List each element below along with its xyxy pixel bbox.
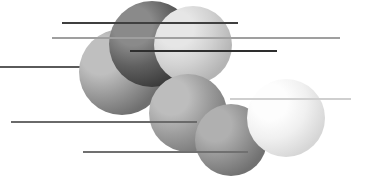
artwork-canvas <box>0 0 366 186</box>
sphere-pale-gray-top <box>154 6 232 84</box>
sphere-white-right <box>247 79 325 157</box>
spheres-and-lines-illustration <box>0 0 366 186</box>
